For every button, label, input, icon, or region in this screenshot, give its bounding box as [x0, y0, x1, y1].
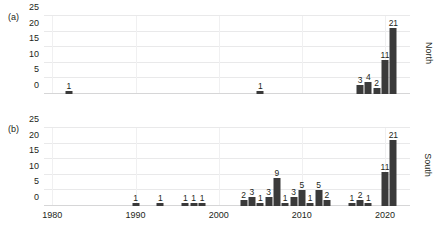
y-axis-tick-label: 0 [34, 81, 39, 90]
bar-value-label: 1 [67, 82, 72, 91]
panel-side-label-south: South [423, 153, 433, 177]
bar: 11 [382, 172, 389, 206]
bar-value-label: 2 [358, 191, 363, 200]
x-gridline [136, 16, 137, 94]
bar-value-label: 1 [191, 194, 196, 203]
bar-value-label: 5 [316, 181, 321, 190]
plot-area-south: 0510152025111112313913515212111211980199… [44, 128, 410, 206]
bar-value-label: 4 [366, 73, 371, 82]
bar-value-label: 2 [241, 191, 246, 200]
bar: 1 [132, 203, 139, 206]
bar-value-label: 1 [258, 82, 263, 91]
bar: 1 [257, 91, 264, 94]
bar-value-label: 1 [283, 194, 288, 203]
y-gridline [44, 31, 410, 32]
x-gridline [302, 16, 303, 94]
x-axis-tick-label: 2020 [375, 211, 395, 220]
bar-value-label: 2 [324, 191, 329, 200]
y-gridline [44, 174, 410, 175]
bar-value-label: 21 [389, 19, 398, 28]
bar-value-label: 1 [133, 194, 138, 203]
y-gridline [44, 189, 410, 190]
y-axis-tick-label: 15 [29, 146, 39, 155]
bar-value-label: 11 [381, 51, 390, 60]
bar: 3 [265, 197, 272, 206]
y-gridline [44, 158, 410, 159]
figure-container: (a) 0510152025113421121 North (b) 051015… [0, 0, 446, 230]
y-axis-tick-label: 5 [34, 65, 39, 74]
bar-value-label: 1 [158, 194, 163, 203]
y-gridline [44, 127, 410, 128]
bar: 1 [282, 203, 289, 206]
y-axis-tick-label: 0 [34, 193, 39, 202]
bar-value-label: 1 [308, 194, 313, 203]
bar: 4 [365, 82, 372, 94]
bar-value-label: 1 [366, 194, 371, 203]
bar: 1 [348, 203, 355, 206]
bar-value-label: 21 [389, 131, 398, 140]
bar: 2 [373, 88, 380, 94]
y-gridline [44, 15, 410, 16]
y-axis-tick-label: 10 [29, 161, 39, 170]
bar: 3 [290, 197, 297, 206]
bar: 2 [323, 200, 330, 206]
bar: 2 [240, 200, 247, 206]
panel-label-a: (a) [8, 12, 19, 22]
panel-side-label-north: North [424, 42, 434, 64]
bar: 9 [273, 178, 280, 206]
x-gridline [219, 128, 220, 206]
bar-value-label: 11 [381, 163, 390, 172]
bar: 5 [298, 190, 305, 206]
bar-value-label: 9 [275, 169, 280, 178]
x-gridline [52, 128, 53, 206]
bar: 3 [248, 197, 255, 206]
y-axis-tick-label: 5 [34, 177, 39, 186]
y-gridline [44, 62, 410, 63]
y-axis-tick-label: 20 [29, 18, 39, 27]
bar: 1 [157, 203, 164, 206]
bar: 1 [365, 203, 372, 206]
x-gridline [219, 16, 220, 94]
bar: 1 [182, 203, 189, 206]
bar-value-label: 2 [374, 79, 379, 88]
panel-label-b: (b) [8, 124, 19, 134]
x-axis-tick-label: 2000 [209, 211, 229, 220]
bar: 1 [257, 203, 264, 206]
y-gridline [44, 77, 410, 78]
bar-value-label: 3 [266, 188, 271, 197]
bar: 21 [390, 140, 397, 206]
y-gridline [44, 46, 410, 47]
bar: 11 [382, 60, 389, 94]
bar-value-label: 3 [358, 76, 363, 85]
bar-value-label: 1 [349, 194, 354, 203]
bar: 1 [190, 203, 197, 206]
bar-value-label: 1 [200, 194, 205, 203]
x-axis-tick-label: 2010 [292, 211, 312, 220]
bar: 3 [357, 85, 364, 94]
bar: 21 [390, 28, 397, 94]
y-axis-tick-label: 25 [29, 3, 39, 12]
x-axis-tick-label: 1990 [125, 211, 145, 220]
x-gridline [52, 16, 53, 94]
bar-value-label: 5 [299, 181, 304, 190]
bar-value-label: 1 [183, 194, 188, 203]
x-axis-tick-label: 1980 [42, 211, 62, 220]
axis-baseline [44, 93, 410, 94]
bar: 1 [65, 91, 72, 94]
y-axis-tick-label: 15 [29, 34, 39, 43]
bar: 5 [315, 190, 322, 206]
bar: 2 [357, 200, 364, 206]
y-gridline [44, 143, 410, 144]
plot-area-north: 0510152025113421121 [44, 16, 410, 94]
bar: 1 [307, 203, 314, 206]
y-axis-tick-label: 25 [29, 115, 39, 124]
bar: 1 [199, 203, 206, 206]
y-axis-tick-label: 10 [29, 49, 39, 58]
panel-south: (b) 051015202511111231391351521211121198… [0, 112, 446, 230]
bar-value-label: 3 [291, 188, 296, 197]
y-axis-tick-label: 20 [29, 130, 39, 139]
bar-value-label: 3 [250, 188, 255, 197]
bar-value-label: 1 [258, 194, 263, 203]
panel-north: (a) 0510152025113421121 North [0, 0, 446, 112]
